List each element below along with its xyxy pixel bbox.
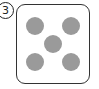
die-face-five bbox=[16, 4, 90, 84]
die-dot bbox=[26, 17, 44, 35]
option-number-label: 3 bbox=[0, 2, 14, 19]
die-dot bbox=[26, 53, 44, 71]
die-dot bbox=[62, 17, 80, 35]
die-dot bbox=[62, 53, 80, 71]
die-dot bbox=[44, 35, 62, 53]
